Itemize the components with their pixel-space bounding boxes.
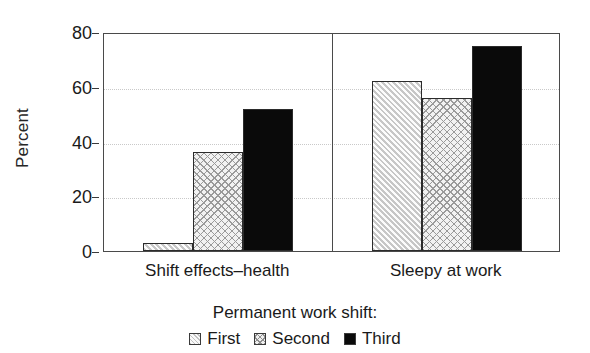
y-axis-tick-mark	[92, 33, 99, 34]
x-axis-category-label: Sleepy at work	[332, 261, 561, 281]
y-axis-title: Percent	[13, 88, 33, 188]
y-axis-tick-mark	[92, 143, 99, 144]
bar-second	[422, 98, 472, 251]
legend-item-label: First	[207, 329, 240, 349]
chart-panel	[333, 34, 562, 251]
y-axis-tick-label: 40	[52, 134, 92, 152]
y-axis-tick-label: 20	[52, 188, 92, 206]
legend-item-third[interactable]: Third	[344, 329, 401, 349]
legend-item-first[interactable]: First	[189, 329, 240, 349]
bar-chart: Percent 806040200 Shift effects–healthSl…	[0, 0, 590, 353]
plot-area	[103, 33, 560, 252]
solid-black-swatch	[344, 333, 356, 345]
y-axis-tick-mark	[92, 197, 99, 198]
y-axis-tick-mark	[92, 88, 99, 89]
cross-hatch-swatch	[254, 333, 266, 345]
bar-third	[472, 46, 522, 251]
chart-panel	[104, 34, 333, 251]
diagonal-hatch-swatch	[189, 333, 201, 345]
bar-third	[243, 109, 293, 251]
legend-item-label: Second	[272, 329, 330, 349]
y-axis-tick-label: 80	[52, 24, 92, 42]
y-axis-tick-mark	[92, 252, 99, 253]
y-axis-tick-label: 60	[52, 79, 92, 97]
x-axis-category-label: Shift effects–health	[103, 261, 332, 281]
legend-item-second[interactable]: Second	[254, 329, 330, 349]
legend-item-label: Third	[362, 329, 401, 349]
y-axis-tick-labels: 806040200	[48, 0, 92, 353]
legend-title: Permanent work shift:	[0, 303, 590, 323]
bar-first	[372, 81, 422, 251]
bar-second	[193, 152, 243, 251]
y-axis-tick-label: 0	[52, 243, 92, 261]
bar-first	[143, 243, 193, 251]
legend: FirstSecondThird	[0, 329, 590, 349]
